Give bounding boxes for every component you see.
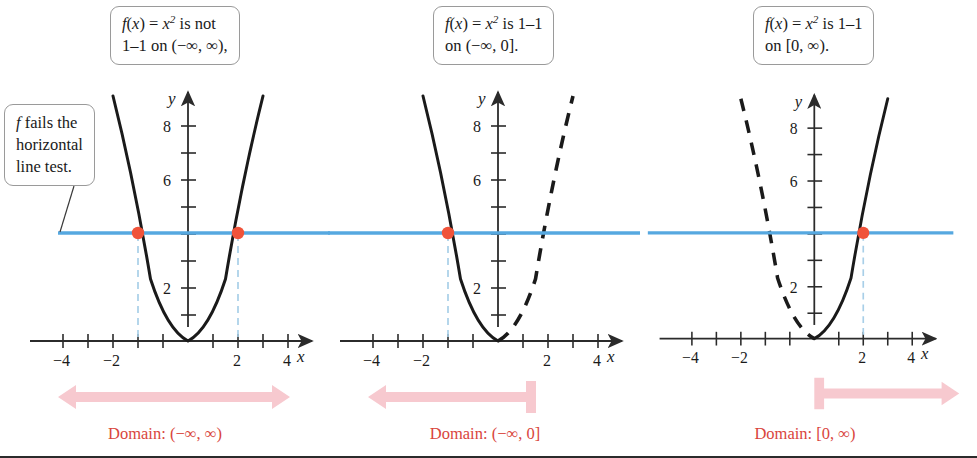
y-tick-label-2-1: 2	[163, 280, 171, 297]
parabola-curve-dashed-3	[741, 99, 814, 339]
domain-caption-2-pre: Domain:	[430, 424, 492, 443]
domain-arrow-3	[814, 378, 959, 409]
parabola-curve-solid-2	[423, 96, 498, 341]
x-axis-label-3: x	[920, 344, 929, 363]
y-axis-label-3: y	[793, 92, 803, 111]
callout-3-line1-post: is 1–1	[818, 14, 862, 33]
domain-caption-3-interval: [0, ∞)	[816, 424, 855, 443]
y-tick-label-6-2: 6	[473, 172, 481, 189]
intersection-point-left-1	[132, 227, 144, 239]
callout-1-line1-post: is not	[175, 14, 215, 33]
y-tick-label-2-3: 2	[790, 279, 798, 296]
callout-left-line1: f fails the	[16, 112, 83, 134]
domain-arrow-1	[58, 385, 290, 409]
callout-2-line1-post: is 1–1	[498, 14, 542, 33]
domain-arrow-2	[368, 381, 536, 413]
callout-1-line1: f(x) = x2 is not	[122, 13, 228, 35]
y-tick-label-8-2: 8	[473, 118, 481, 135]
parabola-curve-solid-3	[814, 99, 887, 339]
callout-horizontal-line-test: f fails the horizontal line test.	[4, 104, 95, 186]
y-tick-label-8-1: 8	[163, 118, 171, 135]
x-tick-label-4-3: 4	[907, 349, 915, 366]
domain-caption-3-pre: Domain:	[754, 424, 816, 443]
x-tick-label-neg2-2: −2	[413, 352, 430, 369]
y-axis-label-2: y	[476, 89, 486, 108]
graph-svg-2: x y −4 −2 2 4 2 6 8	[320, 0, 650, 458]
callout-left-line3: line test.	[16, 156, 83, 178]
x-tick-label-neg4-1: −4	[53, 352, 70, 369]
x-axis-label-2: x	[606, 347, 615, 366]
x-tick-label-neg2-1: −2	[103, 352, 120, 369]
graph-svg-3: x y −4 −2 2 4 2 6 8	[640, 0, 970, 458]
graph-panel-3: x y −4 −2 2 4 2 6 8	[640, 0, 970, 458]
graph-panel-1: x y −4 −2 2 4 2 6 8	[0, 0, 330, 458]
intersection-point-3	[857, 227, 869, 239]
x-tick-label-neg2-3: −2	[731, 349, 748, 366]
y-tick-label-6-1: 6	[163, 172, 171, 189]
graph-svg-1: x y −4 −2 2 4 2 6 8	[0, 0, 330, 458]
graph-panel-2: x y −4 −2 2 4 2 6 8	[320, 0, 650, 458]
domain-caption-1-interval: (−∞, ∞)	[170, 424, 222, 443]
x-tick-label-2-3: 2	[858, 349, 866, 366]
callout-3-line1: f(x) = x2 is 1–1	[765, 13, 862, 35]
x-tick-label-2-1: 2	[233, 352, 241, 369]
intersection-point-2	[442, 227, 454, 239]
callout-panel-3: f(x) = x2 is 1–1 on [0, ∞).	[753, 6, 874, 65]
x-axis-label-1: x	[296, 347, 305, 366]
intersection-point-right-1	[232, 227, 244, 239]
callout-1-line2: 1–1 on (−∞, ∞),	[122, 35, 228, 57]
callout-2-line1: f(x) = x2 is 1–1	[445, 13, 542, 35]
callout-tail-line	[60, 186, 74, 232]
x-tick-label-neg4-3: −4	[682, 349, 699, 366]
x-tick-label-4-2: 4	[593, 352, 601, 369]
callout-panel-2: f(x) = x2 is 1–1 on (−∞, 0].	[433, 6, 554, 65]
domain-caption-2-interval: (−∞, 0]	[492, 424, 541, 443]
domain-caption-1: Domain: (−∞, ∞)	[0, 424, 330, 444]
y-tick-label-2-2: 2	[473, 280, 481, 297]
x-tick-label-2-2: 2	[543, 352, 551, 369]
callout-panel-1: f(x) = x2 is not 1–1 on (−∞, ∞),	[110, 6, 240, 65]
y-tick-label-8-3: 8	[790, 120, 798, 137]
callout-3-line2: on [0, ∞).	[765, 35, 862, 57]
figure-root: x y −4 −2 2 4 2 6 8	[0, 0, 977, 458]
y-axis-label-1: y	[166, 89, 176, 108]
domain-caption-1-pre: Domain:	[108, 424, 170, 443]
parabola-curve-dashed-2	[498, 96, 573, 341]
callout-2-line2: on (−∞, 0].	[445, 35, 542, 57]
x-tick-label-4-1: 4	[283, 352, 291, 369]
domain-caption-3: Domain: [0, ∞)	[640, 424, 970, 444]
domain-caption-2: Domain: (−∞, 0]	[320, 424, 650, 444]
x-tick-label-neg4-2: −4	[363, 352, 380, 369]
y-tick-label-6-3: 6	[790, 173, 798, 190]
callout-left-line2: horizontal	[16, 134, 83, 156]
